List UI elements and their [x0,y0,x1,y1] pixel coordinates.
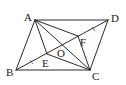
label-D: D [111,12,119,24]
label-C: C [92,70,99,82]
diagonal-BD [16,20,108,70]
label-B: B [6,66,13,78]
label-A: A [24,11,32,23]
label-F: F [80,36,86,48]
parallelogram-diagram: A D B C O E F [0,0,126,85]
segment-AF [35,20,78,36]
segment-CE [47,54,90,70]
label-O: O [57,47,65,59]
label-E: E [42,57,49,69]
